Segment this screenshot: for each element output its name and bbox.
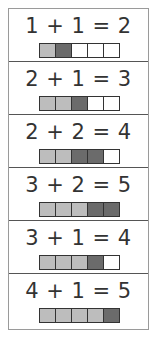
- counting-cell-second: [72, 150, 88, 163]
- counting-cell-second: [72, 97, 88, 110]
- equation-row: 2 + 2 = 4: [9, 115, 148, 168]
- counting-cell-empty: [104, 97, 119, 110]
- equation-text: 4 + 1 = 5: [9, 278, 148, 304]
- counting-cell-first: [40, 97, 56, 110]
- counting-cell-first: [56, 150, 72, 163]
- counting-cell-first: [40, 203, 56, 216]
- equation-row: 2 + 1 = 3: [9, 62, 148, 115]
- addition-table: 1 + 1 = 2 2 + 1 = 3 2 + 2 = 4 3 + 2 = 5 …: [8, 8, 149, 330]
- counting-cell-second: [88, 203, 104, 216]
- counting-cell-second: [104, 309, 119, 322]
- equation-text: 2 + 1 = 3: [9, 66, 148, 92]
- equation-text: 3 + 2 = 5: [9, 172, 148, 198]
- counting-cell-first: [40, 309, 56, 322]
- equation-text: 2 + 2 = 4: [9, 119, 148, 145]
- counting-cell-empty: [104, 44, 119, 57]
- equation-row: 3 + 1 = 4: [9, 221, 148, 274]
- counting-cell-first: [56, 97, 72, 110]
- counting-cell-first: [40, 256, 56, 269]
- cell-bar: [39, 255, 120, 270]
- equation-text: 3 + 1 = 4: [9, 225, 148, 251]
- counting-cell-first: [88, 309, 104, 322]
- cell-bar: [39, 96, 120, 111]
- counting-cell-first: [40, 150, 56, 163]
- cell-bar: [39, 202, 120, 217]
- counting-cell-first: [56, 203, 72, 216]
- counting-cell-empty: [88, 44, 104, 57]
- counting-cell-first: [72, 256, 88, 269]
- equation-row: 3 + 2 = 5: [9, 168, 148, 221]
- counting-cell-first: [56, 309, 72, 322]
- counting-cell-first: [72, 203, 88, 216]
- cell-bar: [39, 308, 120, 323]
- counting-cell-empty: [88, 97, 104, 110]
- counting-cell-first: [72, 309, 88, 322]
- counting-cell-second: [88, 256, 104, 269]
- counting-cell-first: [56, 256, 72, 269]
- cell-bar: [39, 149, 120, 164]
- counting-cell-second: [56, 44, 72, 57]
- counting-cell-second: [88, 150, 104, 163]
- counting-cell-second: [104, 203, 119, 216]
- counting-cell-first: [40, 44, 56, 57]
- cell-bar: [39, 43, 120, 58]
- equation-row: 1 + 1 = 2: [9, 9, 148, 62]
- counting-cell-empty: [104, 256, 119, 269]
- equation-row: 4 + 1 = 5: [9, 274, 148, 329]
- equation-text: 1 + 1 = 2: [9, 13, 148, 39]
- counting-cell-empty: [72, 44, 88, 57]
- counting-cell-empty: [104, 150, 119, 163]
